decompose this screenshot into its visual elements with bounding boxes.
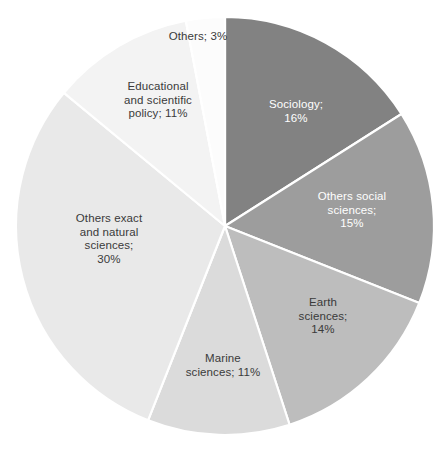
pie-chart-figure: Sociology; 16%Others social sciences; 15…	[0, 0, 443, 453]
pie-slices-group	[16, 17, 434, 435]
pie-chart-canvas	[0, 0, 443, 453]
